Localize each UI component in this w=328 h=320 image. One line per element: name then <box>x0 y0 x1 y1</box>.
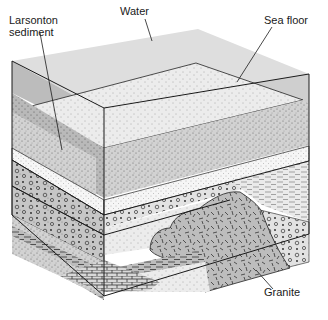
label-granite: Granite <box>264 286 300 298</box>
geology-block-diagram <box>0 0 328 320</box>
label-larsonton-sediment: Larsonton sediment <box>9 14 58 38</box>
label-water: Water <box>120 5 149 17</box>
label-sea-floor: Sea floor <box>264 14 308 26</box>
